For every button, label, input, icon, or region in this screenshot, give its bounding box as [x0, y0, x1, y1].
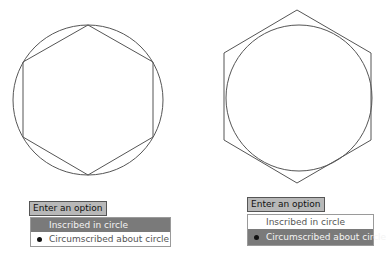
inscribed-figure	[13, 25, 163, 175]
menu-item-circumscribed[interactable]: Circumscribed about circle	[248, 229, 373, 245]
circumscribed-figure	[224, 10, 372, 183]
left-option-menu: Inscribed in circle Circumscribed about …	[30, 217, 171, 247]
menu-item-inscribed[interactable]: Inscribed in circle	[248, 215, 373, 229]
menu-item-label: Circumscribed about circle	[49, 234, 169, 244]
bullet-icon	[254, 235, 259, 240]
left-option-prompt: Enter an option	[29, 201, 107, 216]
right-option-prompt: Enter an option	[247, 197, 325, 212]
menu-item-label: Inscribed in circle	[49, 220, 128, 230]
right-circle	[226, 25, 372, 171]
menu-item-label: Inscribed in circle	[266, 217, 345, 227]
menu-item-circumscribed[interactable]: Circumscribed about circle	[31, 232, 170, 246]
right-option-menu: Inscribed in circle Circumscribed about …	[247, 214, 374, 246]
left-hexagon	[23, 25, 153, 175]
menu-item-label: Circumscribed about circle	[266, 232, 386, 242]
bullet-icon	[37, 237, 42, 242]
left-circle	[13, 25, 163, 175]
right-hexagon	[224, 10, 371, 183]
menu-item-inscribed[interactable]: Inscribed in circle	[31, 218, 170, 232]
